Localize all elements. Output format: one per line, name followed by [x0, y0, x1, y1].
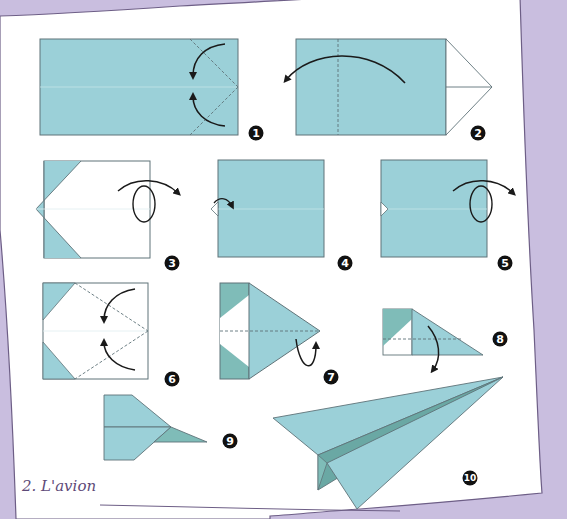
svg-text:4: 4 — [341, 257, 349, 270]
svg-text:6: 6 — [168, 373, 176, 386]
step-1-diagram: 1 — [40, 39, 264, 141]
step-badge-3: 3 — [165, 256, 180, 271]
svg-text:1: 1 — [252, 127, 260, 140]
svg-text:7: 7 — [327, 371, 335, 384]
svg-text:9: 9 — [226, 435, 234, 448]
step-badge-6: 6 — [165, 372, 180, 387]
svg-text:10: 10 — [464, 473, 477, 483]
svg-text:3: 3 — [168, 257, 176, 270]
svg-text:5: 5 — [501, 257, 509, 270]
step-badge-1: 1 — [249, 126, 264, 141]
step-badge-4: 4 — [338, 256, 353, 271]
step-badge-7: 7 — [324, 370, 339, 385]
origami-airplane-instructions: 1 2 3 — [0, 0, 567, 519]
step-badge-9: 9 — [223, 434, 238, 449]
step-badge-10: 10 — [463, 471, 478, 486]
step-badge-8: 8 — [493, 332, 508, 347]
page-title: 2. L'avion — [21, 477, 96, 495]
svg-text:8: 8 — [496, 333, 504, 346]
step-badge-5: 5 — [498, 256, 513, 271]
svg-text:2: 2 — [474, 127, 482, 140]
step-badge-2: 2 — [471, 126, 486, 141]
